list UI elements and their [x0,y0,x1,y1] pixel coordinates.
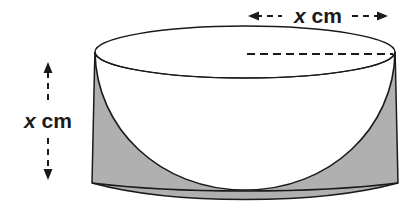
width-label: x cm [293,4,342,27]
height-label: x cm [23,109,72,132]
height-label-unit: cm [42,109,72,132]
cylinder-hemisphere-diagram: x cm x cm [0,0,420,208]
arrowhead-right-icon [377,12,388,21]
vertical-dimension-group: x cm [23,62,72,180]
horizontal-dimension-group: x cm [248,4,388,27]
arrowhead-up-icon [44,62,53,73]
arrowhead-left-icon [248,12,259,21]
geometry-figure: x cm x cm [0,0,420,208]
arrowhead-down-icon [44,169,53,180]
width-label-unit: cm [312,4,342,27]
